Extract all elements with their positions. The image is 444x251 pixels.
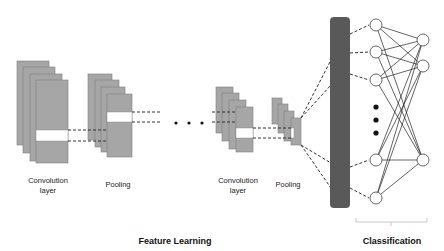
- pool2-label: Pooling: [268, 180, 308, 190]
- neuron-node: [370, 46, 382, 58]
- receptive-field-band: [36, 130, 68, 141]
- classification-bracket: [356, 218, 427, 226]
- neuron-node: [370, 192, 382, 204]
- conv1-stack: [17, 61, 68, 163]
- cnn-architecture-diagram: [0, 0, 444, 251]
- dense-edges: [376, 25, 423, 198]
- ellipsis-dot: [187, 121, 190, 124]
- conv2-stack: [216, 87, 253, 152]
- pool1-label: Pooling: [98, 180, 138, 190]
- feature-learning-title: Feature Learning: [120, 236, 230, 246]
- neuron-node: [370, 154, 382, 166]
- conv1-label: Convolution layer: [20, 176, 76, 196]
- neuron-node: [370, 19, 382, 31]
- pool2-stack: [272, 98, 301, 145]
- ellipsis-dot: [174, 121, 177, 124]
- receptive-field-band: [236, 128, 253, 138]
- neuron-node: [370, 74, 382, 86]
- neuron-node: [417, 34, 429, 46]
- neuron-node: [417, 154, 429, 166]
- neuron-node: [417, 60, 429, 72]
- classification-title: Classification: [350, 236, 434, 246]
- ellipsis-dot: [373, 117, 378, 122]
- feature-map: [107, 94, 132, 157]
- fully-connected-flatten-bar: [330, 17, 350, 208]
- receptive-field-band: [107, 112, 132, 122]
- receptive-field-band: [291, 128, 294, 138]
- pool1-stack: [88, 74, 132, 157]
- ellipsis-dot: [200, 121, 203, 124]
- ellipsis-dot: [373, 130, 378, 135]
- ellipsis-dot: [373, 104, 378, 109]
- feature-map: [36, 80, 68, 163]
- conv2-label: Convolution layer: [210, 176, 266, 196]
